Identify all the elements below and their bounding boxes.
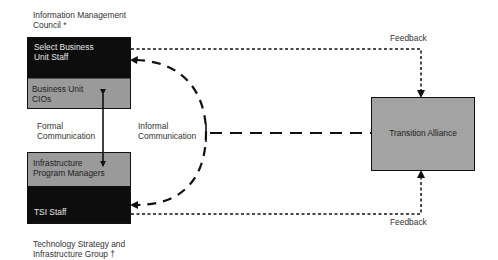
feedback-bottom-line: [131, 174, 421, 214]
feedback-top-arrowhead-icon: [417, 90, 425, 98]
feedback-bottom-arrowhead-icon: [417, 170, 425, 178]
connector-overlay: [0, 0, 498, 260]
arc-arrowhead-top-icon: [130, 56, 138, 64]
arc-arrowhead-bottom-icon: [130, 201, 138, 209]
feedback-top-line: [131, 49, 421, 94]
informal-communication-arc: [136, 60, 206, 205]
